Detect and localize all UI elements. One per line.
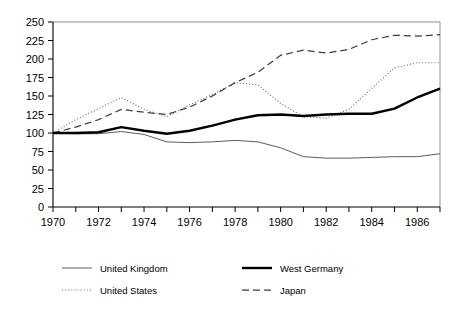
y-tick-label: 100 — [26, 127, 44, 139]
legend-label-japan: Japan — [280, 285, 306, 296]
legend-item-japan: Japan — [242, 285, 306, 296]
y-tick-label: 200 — [26, 53, 44, 65]
y-tick-group: 0255075100125150175200225250 — [26, 16, 53, 213]
legend-item-united-states: United States — [62, 285, 157, 296]
y-tick-label: 175 — [26, 72, 44, 84]
line-chart: 0255075100125150175200225250 19701972197… — [0, 0, 451, 312]
y-tick-label: 225 — [26, 35, 44, 47]
x-axis: 197019721974197619781980198219841986 — [41, 207, 440, 228]
x-tick-label: 1970 — [41, 216, 65, 228]
x-tick-label: 1976 — [177, 216, 201, 228]
series-line-west-germany — [53, 89, 440, 134]
x-tick-label: 1972 — [86, 216, 110, 228]
series-line-united-kingdom — [53, 132, 440, 159]
y-tick-label: 125 — [26, 109, 44, 121]
y-axis: 0255075100125150175200225250 — [26, 16, 53, 213]
y-tick-label: 25 — [32, 183, 44, 195]
series-group — [53, 35, 440, 159]
x-tick-label: 1986 — [405, 216, 429, 228]
legend-item-united-kingdom: United Kingdom — [62, 263, 168, 274]
x-tick-label: 1980 — [268, 216, 292, 228]
x-tick-label: 1974 — [132, 216, 156, 228]
x-tick-label: 1984 — [359, 216, 383, 228]
legend-label-united-kingdom: United Kingdom — [100, 263, 168, 274]
legend-item-west-germany: West Germany — [242, 263, 343, 274]
y-tick-label: 50 — [32, 164, 44, 176]
x-tick-label: 1978 — [223, 216, 247, 228]
y-tick-label: 0 — [38, 201, 44, 213]
chart-legend: United Kingdom West Germany United State… — [62, 263, 343, 296]
legend-label-united-states: United States — [100, 285, 157, 296]
x-tick-label: 1982 — [314, 216, 338, 228]
y-tick-label: 75 — [32, 146, 44, 158]
y-tick-label: 150 — [26, 90, 44, 102]
x-tick-group: 197019721974197619781980198219841986 — [41, 207, 440, 228]
y-tick-label: 250 — [26, 16, 44, 28]
chart-container: 0255075100125150175200225250 19701972197… — [0, 0, 451, 312]
legend-label-west-germany: West Germany — [280, 263, 343, 274]
series-line-united-states — [53, 63, 440, 133]
